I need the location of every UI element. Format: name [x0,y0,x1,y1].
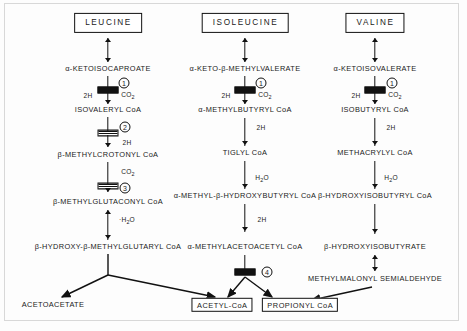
metabolite-val-hydroxyisobutyryl-coa: β-HYDROXYISOBUTYRYL CoA [318,192,432,199]
metabolite-val-methylmalonyl-semialdehyde: METHYLMALONYL SEMIALDEHYDE [308,275,442,282]
metabolite-val-isobutyryl-coa: ISOBUTYRYL CoA [341,106,409,113]
metabolite-leu-ketoisocaproate: α-KETOISOCAPROATE [65,65,151,72]
cofactor-ile-4-2h: 2H [258,217,267,224]
enzyme-number-leu-3: 3 [120,183,131,194]
metabolite-leu-methylglutaconyl-coa: β-METHYLGLUTACONYL CoA [53,198,163,205]
enzyme-number-leu-2: 2 [120,122,131,133]
enzyme-block-ile-4 [235,269,256,276]
enzyme-number-leu-1: 1 [119,78,130,89]
arrowhead-leu-1 [105,100,111,104]
cofactor-val-1-co2: CO2 [388,92,402,100]
metabolite-ile-methyl-hydroxybutyryl-coa: α-METHYL-β-HYDROXYBUTYRYL CoA [174,192,317,199]
metabolite-ile-methylbutyryl-coa: α-METHYLBUTYRYL CoA [198,106,291,113]
arrowhead-val-5-up [372,255,378,259]
cofactor-val-2-2h: 2H [387,125,396,132]
amino-acid-box-valine: VALINE [345,13,404,33]
cofactor-ile-3-water: H2O [255,175,269,183]
enzyme-block-val-1 [365,87,386,94]
arrowhead-val-5-down [372,267,378,271]
arrowhead-ile-0-up [242,38,248,42]
enzyme-block-leu-1 [98,87,119,94]
metabolite-leu-methylcrotonyl-coa: β-METHYLCROTONYL CoA [58,151,159,158]
arrowhead-ile-0-down [242,58,248,62]
metabolite-ile-tiglyl-coa: TIGLYL CoA [223,149,268,156]
arrowhead-ile-4 [242,227,248,231]
metabolite-leu-hmg-coa: β-HYDROXY-β-METHYLGLUTARYL CoA [35,243,182,250]
enzyme-number-ile-4: 4 [262,267,273,278]
cofactor-ile-2-2h: 2H [257,125,266,132]
cofactor-ile-1-co2: CO2 [258,92,272,100]
enzyme-block-leu-2 [98,130,119,137]
arrowhead-ile-1 [242,100,248,104]
product-box-acetyl-coa: ACETYL-CoA [191,298,252,312]
page-frame-border [4,3,459,321]
pathway-diagram-page: LEUCINE ISOLEUCINE VALINE α-KETOISOCAPRO… [0,0,467,331]
enzyme-block-ile-1 [235,87,256,94]
enzyme-number-ile-1: 1 [256,78,267,89]
arrowhead-leu-0-down [105,58,111,62]
arrowhead-leu-2 [105,143,111,147]
enzyme-block-leu-3 [98,183,119,190]
arrowhead-val-3 [372,184,378,188]
amino-acid-box-isoleucine: ISOLEUCINE [202,13,289,33]
metabolite-val-methacrylyl-coa: METHACRYLYL CoA [337,149,412,156]
cofactor-leu-3-co2: CO2 [121,169,135,177]
metabolite-leu-isovaleryl-coa: ISOVALERYL CoA [75,106,141,113]
amino-acid-box-leucine: LEUCINE [74,13,142,33]
arrowhead-leu-4-up [105,210,111,214]
product-acetoacetate: ACETOACETATE [22,301,85,308]
arrowhead-val-0-up [372,38,378,42]
metabolite-val-hydroxyisobutyrate: β-HYDROXYISOBUTYRATE [324,243,426,250]
arrowhead-val-2 [372,141,378,145]
metabolite-val-ketoisovalerate: α-KETOISOVALERATE [334,65,417,72]
cofactor-val-3-water: H2O [384,175,398,183]
metabolite-ile-keto-methylvalerate: α-KETO-β-METHYLVALERATE [190,65,301,72]
enzyme-number-val-1: 1 [387,78,398,89]
arrowhead-ile-3 [242,184,248,188]
cofactor-leu-2-2h: 2H [123,140,132,147]
arrowhead-ile-2 [242,141,248,145]
cofactor-val-1-2h: 2H [352,93,361,100]
cofactor-leu-1-2h: 2H [84,93,93,100]
arrowhead-val-1 [372,100,378,104]
cofactor-leu-4-water: ·H2O [119,217,135,225]
metabolite-ile-methylacetoacetyl-coa: α-METHYLACETOACETYL CoA [188,243,303,250]
arrowhead-val-4 [372,229,378,233]
product-box-propionyl-coa: PROPIONYL CoA [262,298,338,312]
cofactor-ile-1-2h: 2H [222,93,231,100]
arrowhead-leu-4-down [105,235,111,239]
arrowhead-leu-0-up [105,38,111,42]
arrowhead-val-0-down [372,58,378,62]
cofactor-leu-1-co2: CO2 [121,92,135,100]
